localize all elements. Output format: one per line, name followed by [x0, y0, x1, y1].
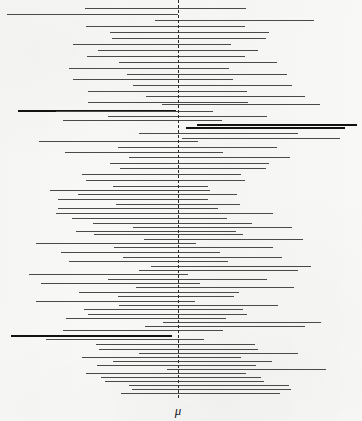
interval-line-missing — [197, 124, 357, 126]
interval-line-covering — [41, 283, 200, 284]
interval-line-covering — [96, 344, 255, 345]
interval-line-covering — [84, 309, 243, 310]
interval-line-covering — [112, 38, 266, 39]
interval-line-covering — [114, 247, 273, 248]
interval-line-covering — [79, 292, 239, 293]
interval-line-covering — [162, 104, 320, 105]
interval-line-covering — [119, 305, 278, 306]
interval-line-covering — [58, 208, 218, 209]
interval-line-covering — [146, 96, 305, 97]
interval-line-covering — [85, 8, 246, 9]
interval-line-covering — [58, 199, 208, 200]
interval-line-covering — [63, 120, 222, 121]
interval-line-covering — [123, 257, 282, 258]
interval-line-covering — [82, 357, 241, 358]
interval-line-covering — [119, 62, 277, 63]
interval-line-covering — [63, 330, 223, 331]
interval-line-covering — [154, 14, 178, 15]
interval-line-covering — [66, 318, 226, 319]
interval-line-covering — [108, 116, 267, 117]
interval-line-covering — [120, 168, 266, 169]
interval-line-covering — [127, 74, 287, 75]
interval-line-covering — [139, 270, 298, 271]
interval-line-covering — [121, 393, 280, 394]
interval-line-covering — [139, 133, 298, 134]
interval-line-covering — [29, 274, 188, 275]
interval-line-covering — [113, 361, 272, 362]
interval-line-covering — [133, 85, 292, 86]
interval-line-covering — [56, 213, 273, 214]
interval-line-covering — [36, 243, 196, 244]
interval-line-covering — [139, 353, 298, 354]
interval-line-covering — [39, 141, 198, 142]
mu-reference-line — [178, 0, 179, 398]
interval-line-covering — [144, 239, 303, 240]
interval-line-covering — [88, 91, 247, 92]
interval-line-covering — [133, 227, 292, 228]
interval-line-covering — [86, 180, 245, 181]
interval-line-covering — [101, 377, 261, 378]
interval-line-covering — [78, 194, 237, 195]
interval-line-covering — [108, 279, 267, 280]
interval-line-covering — [118, 147, 277, 148]
interval-line-covering — [94, 234, 243, 235]
interval-line-covering — [86, 26, 245, 27]
interval-line-covering — [129, 157, 290, 158]
interval-line-covering — [86, 373, 246, 374]
interval-line-covering — [105, 381, 264, 382]
interval-line-covering — [73, 79, 233, 80]
interval-line-covering — [56, 111, 213, 112]
interval-line-covering — [93, 223, 252, 224]
interval-line-covering — [87, 56, 245, 57]
interval-line-covering — [72, 218, 227, 219]
interval-line-missing — [186, 127, 345, 129]
interval-line-covering — [36, 301, 195, 302]
interval-lines-group — [0, 0, 362, 421]
interval-line-covering — [129, 385, 289, 386]
confidence-interval-figure: μ — [0, 0, 362, 421]
interval-line-covering — [113, 186, 208, 187]
interval-line-covering — [118, 296, 234, 297]
interval-line-covering — [69, 261, 228, 262]
interval-line-covering — [61, 252, 220, 253]
interval-line-covering — [182, 138, 340, 139]
interval-line-covering — [76, 231, 236, 232]
interval-line-covering — [145, 326, 305, 327]
interval-line-covering — [88, 102, 248, 103]
interval-line-missing — [11, 335, 172, 337]
interval-line-covering — [136, 287, 294, 288]
interval-line-covering — [88, 314, 247, 315]
interval-line-covering — [167, 369, 326, 370]
interval-line-covering — [132, 389, 291, 390]
interval-line-covering — [97, 365, 256, 366]
interval-line-covering — [46, 339, 204, 340]
interval-line-covering — [69, 68, 229, 69]
interval-line-covering — [7, 14, 168, 15]
interval-line-covering — [65, 152, 223, 153]
interval-line-covering — [73, 44, 231, 45]
mu-axis-label: μ — [158, 404, 198, 417]
interval-line-covering — [82, 174, 241, 175]
interval-line-covering — [50, 190, 210, 191]
interval-line-covering — [110, 32, 269, 33]
interval-line-covering — [151, 266, 311, 267]
interval-line-covering — [163, 322, 321, 323]
interval-line-covering — [110, 163, 269, 164]
